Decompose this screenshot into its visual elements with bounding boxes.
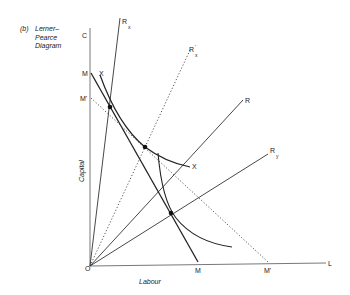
label-origin: O — [85, 265, 91, 272]
isocost-mm — [91, 73, 198, 262]
ray-rx — [90, 18, 120, 266]
label-l: L — [328, 260, 332, 267]
x-axis-label: Labour — [139, 278, 161, 285]
tangency-point-3 — [169, 211, 174, 216]
lerner-pearce-diagram: C L O R x R ' x R R y X X M M' M M' Labo… — [0, 0, 350, 295]
label-c: C — [82, 32, 87, 39]
label-x-top: X — [99, 70, 104, 77]
label-rx-prime-sub: x — [195, 52, 198, 58]
isocost-m-prime — [91, 98, 268, 262]
label-rx-prime-mark: ' — [195, 44, 196, 50]
label-rx-sub: x — [128, 24, 131, 30]
isoquant-x — [100, 75, 190, 167]
ray-rx-prime — [90, 50, 190, 266]
label-ry-sub: y — [276, 153, 279, 159]
label-m-bottom: M — [195, 267, 201, 274]
label-rx-prime: R — [189, 46, 194, 53]
label-m-top: M — [82, 70, 88, 77]
ray-r — [90, 100, 243, 266]
tangency-point-2 — [143, 145, 148, 150]
label-m-prime-top: M' — [80, 95, 87, 102]
x-axis — [90, 263, 326, 266]
label-ry: R — [270, 147, 275, 154]
label-r: R — [245, 97, 250, 104]
tangency-point-1 — [108, 105, 113, 110]
ray-ry — [90, 154, 268, 266]
label-x-right: X — [192, 163, 197, 170]
label-m-prime-bottom: M' — [264, 267, 271, 274]
label-rx: R — [122, 18, 127, 25]
y-axis-label: Capital — [78, 160, 86, 182]
